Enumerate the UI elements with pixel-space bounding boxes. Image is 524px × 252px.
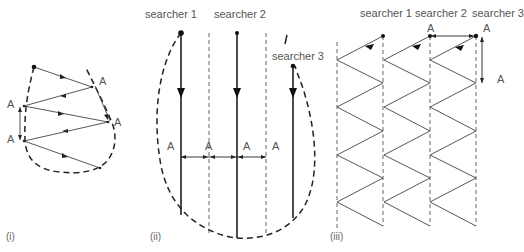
label-a: A — [243, 141, 250, 152]
label-a: A — [205, 141, 212, 152]
label-a: A — [272, 141, 279, 152]
start-point — [32, 65, 37, 70]
label-a: A — [114, 117, 121, 128]
label-a: A — [7, 99, 14, 110]
panel-caption-i: (i) — [6, 232, 15, 242]
panel-caption-iii: (iii) — [330, 232, 343, 242]
label-a: A — [167, 141, 174, 152]
label-a: A — [497, 74, 504, 85]
searcher-label: searcher 1 — [145, 9, 197, 20]
label-a: A — [99, 76, 106, 87]
searcher-label: searcher 2 — [214, 9, 266, 20]
searcher-label: searcher 3 — [272, 51, 324, 62]
label-a: A — [427, 23, 434, 34]
panel-caption-ii: (ii) — [150, 232, 161, 242]
label-a: A — [483, 23, 490, 34]
searcher-label: searcher 1 — [360, 8, 412, 19]
panel-iii — [337, 34, 484, 230]
label-a: A — [7, 134, 14, 145]
searcher-label: searcher 2 — [415, 8, 467, 19]
searcher-label: searcher 3 — [472, 8, 524, 19]
